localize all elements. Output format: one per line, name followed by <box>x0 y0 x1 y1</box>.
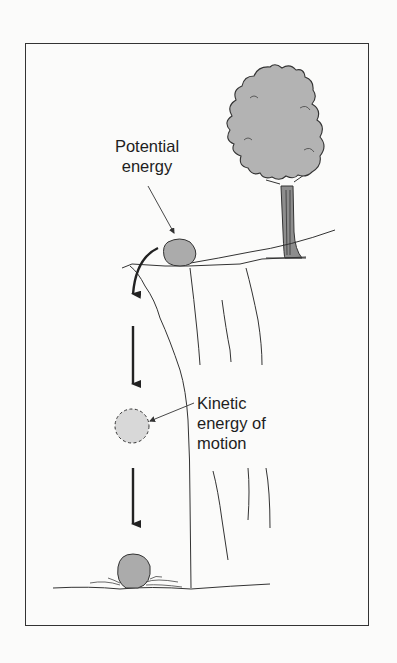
potential-pointer <box>148 186 174 233</box>
label-line: energy of <box>197 413 266 433</box>
potential-energy-label: Potential energy <box>104 136 190 176</box>
label-line: motion <box>197 433 266 453</box>
kinetic-energy-label: Kinetic energy of motion <box>197 393 266 453</box>
label-line: Kinetic <box>197 393 266 413</box>
tree-icon <box>227 65 324 258</box>
rock-falling <box>115 409 149 443</box>
label-line: energy <box>104 156 190 176</box>
label-line: Potential <box>104 136 190 156</box>
rock-potential <box>164 239 196 266</box>
energy-diagram <box>0 0 397 663</box>
rock-ground <box>90 554 182 588</box>
